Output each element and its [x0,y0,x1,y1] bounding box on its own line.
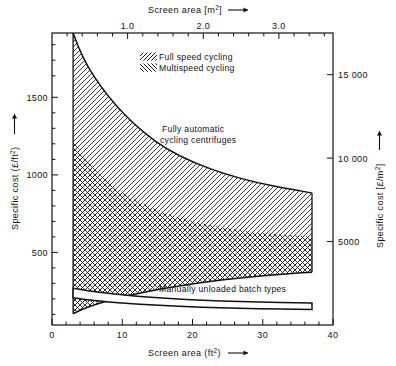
top-axis-title-tail: ] [219,5,222,15]
legend-label-full-speed-cycling: Full speed cycling [159,52,233,62]
annotation-fully-automatic-line1: Fully automatic [162,124,225,134]
bottom-tick-label-3: 20 [187,330,198,340]
legend-label-multispeed-cycling: Multispeed cycling [159,63,235,73]
bottom-tick-label-2: 10 [117,330,128,340]
legend-swatch-multispeed-cycling [140,64,157,72]
bottom-tick-label-5: 40 [328,330,339,340]
svg-text:Screen area [m2]: Screen area [m2] [148,4,222,16]
bottom-axis-title-tail: ) [218,348,221,358]
svg-text:Specific cost [£/m2]: Specific cost [£/m2] [374,163,386,248]
top-tick-label-3: 3.0 [272,21,286,31]
left-axis-title-tail: ) [10,147,20,150]
top-tick-label-1: 1.0 [121,21,135,31]
annotation-fully-automatic-line2: cycling centrifuges [160,135,236,145]
top-axis-title-main: Screen area [m [148,5,215,15]
left-tick-label-500: 500 [32,248,48,258]
svg-text:Specific cost (£/ft2): Specific cost (£/ft2) [9,147,21,231]
bottom-tick-label-1: 0 [49,330,54,340]
right-tick-label-10000: 10 000 [338,154,368,164]
right-axis-title-main: Specific cost [£/m [375,170,385,248]
left-axis-title-main: Specific cost (£/ft [10,154,20,230]
right-axis-title-tail: ] [375,163,385,166]
bottom-axis-title-main: Screen area (ft [148,348,214,358]
left-tick-label-1500: 1500 [26,93,48,103]
right-tick-label-15000: 15 000 [338,70,368,80]
bottom-tick-label-4: 30 [257,330,268,340]
specific-cost-vs-screen-area-chart: 1.0 2.0 3.0 Screen area [m2] 0 10 20 30 … [0,0,396,366]
right-tick-label-5000: 5000 [338,237,360,247]
legend-swatch-full-speed-cycling [140,53,157,61]
svg-text:Screen area (ft2): Screen area (ft2) [148,347,221,359]
left-tick-label-1000: 1000 [26,170,48,180]
annotation-manually-unloaded-label: Manually unloaded batch types [159,284,286,294]
chart-figure: 1.0 2.0 3.0 Screen area [m2] 0 10 20 30 … [0,0,396,366]
annotation-manually-unloaded: Manually unloaded batch types [159,284,286,294]
top-tick-label-2: 2.0 [196,21,210,31]
